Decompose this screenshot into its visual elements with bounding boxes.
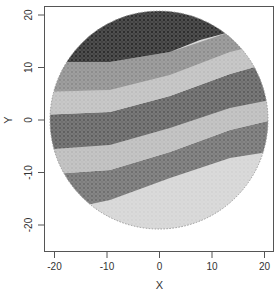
y-tick-label: -20 <box>23 217 34 232</box>
y-tick-label: 0 <box>23 117 34 123</box>
x-tick-label: 10 <box>206 261 218 272</box>
x-axis <box>55 252 265 258</box>
y-tick-label: -10 <box>23 165 34 180</box>
x-axis-title: X <box>156 279 164 291</box>
x-tick-labels: -20 -10 0 10 20 <box>47 261 270 272</box>
x-tick-label: -10 <box>100 261 115 272</box>
x-tick-label: 0 <box>157 261 163 272</box>
y-axis <box>38 15 44 225</box>
y-tick-label: 10 <box>23 62 34 74</box>
scatter-chart: 20 10 0 -10 -20 Y -20 -10 0 10 20 X <box>0 0 279 298</box>
x-tick-label: -20 <box>47 261 62 272</box>
y-tick-labels: 20 10 0 -10 -20 <box>23 9 34 232</box>
y-axis-title: Y <box>2 116 14 124</box>
x-tick-label: 20 <box>259 261 271 272</box>
y-tick-label: 20 <box>23 9 34 21</box>
